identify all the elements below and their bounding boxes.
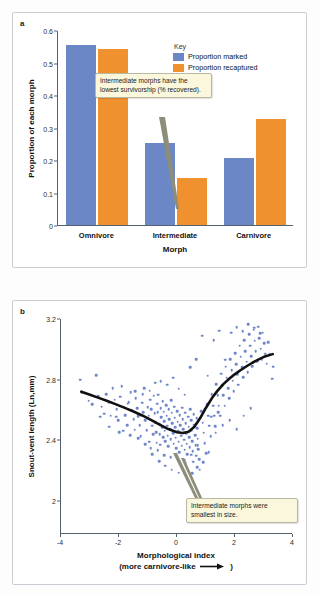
panel-a-callout-leader <box>13 13 308 269</box>
panel-b-callout-leader <box>13 301 308 586</box>
panel-b: b Snout-vent length (Ln,mm) 22.42.83.2 -… <box>12 300 307 585</box>
panel-b-callout: Intermediate morphs were smallest in siz… <box>186 498 298 523</box>
panel-a-callout: Intermediate morphs have the lowest surv… <box>95 73 212 98</box>
panel-a: a Proportion of each morph 00.10.20.30.4… <box>12 12 307 268</box>
figure-container: a Proportion of each morph 00.10.20.30.4… <box>0 0 319 597</box>
